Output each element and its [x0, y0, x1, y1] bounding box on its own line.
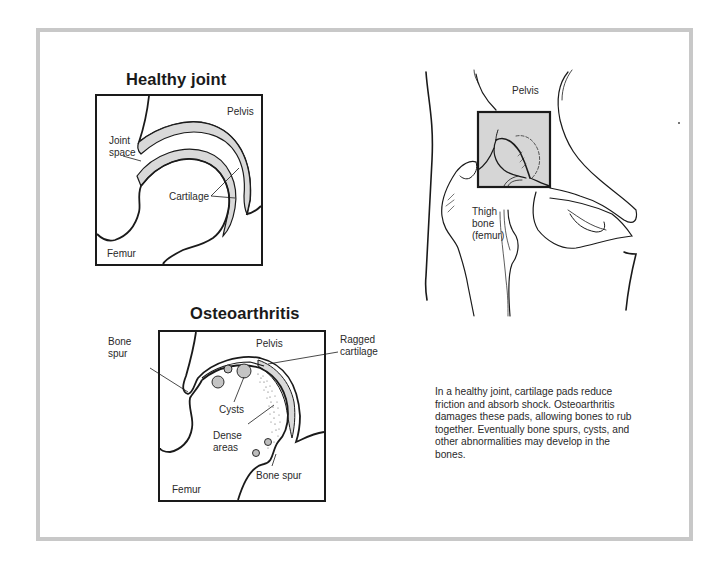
stray-mark — [678, 122, 680, 124]
healthy-joint-title: Healthy joint — [126, 70, 226, 89]
hip-anatomy-illustration: Pelvis Thigh bone (femur) — [400, 60, 680, 320]
label-pelvis: Pelvis — [227, 106, 254, 118]
osteoarthritis-panel: Pelvis Bone spur Ragged cartilage Cysts … — [158, 330, 326, 502]
label-joint-space-line1: Joint — [109, 135, 130, 147]
hip-bones-drawing — [400, 60, 680, 320]
label-dense-areas-line1: Dense — [213, 430, 242, 442]
label-bone-spur-bottom: Bone spur — [256, 470, 302, 482]
label-joint-space-line2: space — [109, 147, 136, 159]
label-thigh-line3: (femur) — [472, 230, 504, 242]
healthy-joint-illustration — [97, 96, 261, 264]
label-pelvis: Pelvis — [512, 85, 539, 97]
label-femur: Femur — [172, 484, 201, 496]
label-thigh-line1: Thigh — [472, 206, 497, 218]
label-cartilage: Cartilage — [169, 191, 209, 203]
label-cysts: Cysts — [219, 404, 244, 416]
label-femur: Femur — [107, 248, 136, 260]
label-ragged-cartilage-line1: Ragged — [340, 334, 375, 346]
label-ragged-cartilage-line2: cartilage — [340, 346, 378, 358]
label-bone-spur-left-line1: Bone — [108, 336, 131, 348]
healthy-joint-panel: Pelvis Joint space Cartilage Femur — [95, 94, 263, 266]
label-thigh-line2: bone — [472, 218, 494, 230]
label-bone-spur-left-line2: spur — [108, 348, 127, 360]
label-pelvis: Pelvis — [256, 338, 283, 350]
label-dense-areas-line2: areas — [213, 442, 238, 454]
osteoarthritis-title: Osteoarthritis — [190, 304, 300, 323]
caption-text: In a healthy joint, cartilage pads reduc… — [435, 386, 635, 462]
